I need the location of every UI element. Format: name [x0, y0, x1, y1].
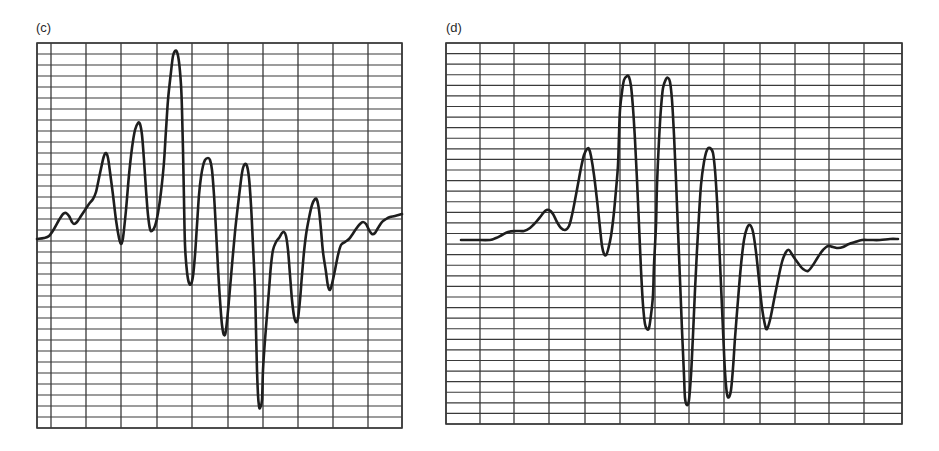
- grid-c: [37, 43, 402, 428]
- grid-frame: [37, 43, 402, 428]
- chart-d: [446, 43, 902, 424]
- chart-c: [37, 43, 402, 428]
- grid-d: [446, 43, 902, 424]
- waveform-trace-d: [461, 76, 898, 405]
- waveform-charts: [0, 0, 939, 451]
